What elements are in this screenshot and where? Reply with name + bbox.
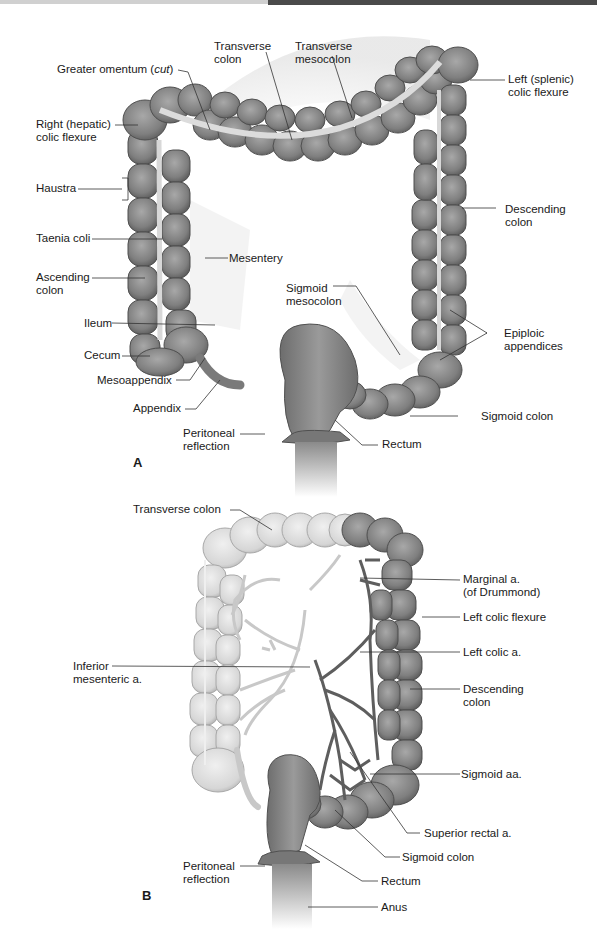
panel-label-b: B — [142, 888, 151, 903]
label-line: colon — [214, 53, 271, 66]
label-line: colic flexure — [508, 86, 574, 99]
label-rectum-a: Rectum — [382, 438, 422, 451]
label-line: colic flexure — [36, 131, 111, 144]
label-anus: Anus — [381, 901, 407, 914]
label-line: Taenia coli — [36, 232, 90, 245]
label-line: Ascending — [36, 271, 90, 284]
label-left-splenic-flexure: Left (splenic) colic flexure — [508, 73, 574, 99]
label-line: mesocolon — [286, 295, 342, 308]
label-line: Sigmoid colon — [481, 410, 553, 423]
label-peritoneal-reflection-a: Peritoneal reflection — [183, 427, 235, 453]
label-line: Peritoneal — [183, 427, 235, 440]
label-line: Descending — [505, 203, 566, 216]
label-line: Rectum — [382, 438, 422, 451]
label-line: Right (hepatic) — [36, 118, 111, 131]
label-line: Inferior — [73, 660, 142, 673]
label-line: Transverse — [295, 40, 352, 53]
panel-label-a: A — [133, 455, 142, 470]
label-rectum-b: Rectum — [381, 875, 421, 888]
label-line: Descending — [463, 683, 524, 696]
label-descending-colon-b: Descending colon — [463, 683, 524, 709]
label-line: Haustra — [36, 182, 76, 195]
label-line: Transverse colon — [133, 503, 221, 516]
label-line: colon — [505, 216, 566, 229]
label-line: Left colic flexure — [463, 611, 546, 624]
label-sigmoid-colon-a: Sigmoid colon — [481, 410, 553, 423]
label-right-hepatic-flexure: Right (hepatic) colic flexure — [36, 118, 111, 144]
label-line: Left colic a. — [463, 646, 521, 659]
panel-a-art — [123, 36, 478, 497]
label-mesoappendix: Mesoappendix — [97, 374, 172, 387]
label-epiploic-appendices: Epiploic appendices — [504, 327, 563, 353]
label-line: Mesentery — [229, 252, 283, 265]
label-line: Anus — [381, 901, 407, 914]
label-line: Sigmoid colon — [402, 851, 474, 864]
label-suffix: ) — [170, 63, 174, 75]
label-inferior-mesenteric-artery: Inferior mesenteric a. — [73, 660, 142, 686]
label-greater-omentum: Greater omentum (cut) — [57, 63, 173, 76]
label-text: Greater omentum ( — [57, 63, 154, 75]
label-line: Sigmoid aa. — [461, 768, 522, 781]
label-line: Left (splenic) — [508, 73, 574, 86]
label-line: Marginal a. — [463, 573, 540, 586]
label-transverse-colon-b: Transverse colon — [133, 503, 221, 516]
label-transverse-colon-a: Transverse colon — [214, 40, 271, 66]
label-line: Peritoneal — [183, 860, 235, 873]
label-sigmoid-arteries: Sigmoid aa. — [461, 768, 522, 781]
label-taenia-coli: Taenia coli — [36, 232, 90, 245]
label-line: Ileum — [84, 317, 112, 330]
label-sigmoid-mesocolon: Sigmoid mesocolon — [286, 282, 342, 308]
label-line: Sigmoid — [286, 282, 342, 295]
label-line: Cecum — [84, 349, 120, 362]
label-line: colon — [463, 696, 524, 709]
label-line: (of Drummond) — [463, 586, 540, 599]
label-appendix: Appendix — [133, 402, 181, 415]
label-ileum: Ileum — [84, 317, 112, 330]
label-mesentery: Mesentery — [229, 252, 283, 265]
label-italic-cut: cut — [154, 63, 169, 75]
label-left-colic-flexure-b: Left colic flexure — [463, 611, 546, 624]
label-cecum: Cecum — [84, 349, 120, 362]
label-line: mesocolon — [295, 53, 352, 66]
label-line: Epiploic — [504, 327, 563, 340]
label-line: appendices — [504, 340, 563, 353]
label-line: reflection — [183, 873, 235, 886]
label-line: Superior rectal a. — [424, 827, 512, 840]
label-superior-rectal-artery: Superior rectal a. — [424, 827, 512, 840]
label-line: Appendix — [133, 402, 181, 415]
label-line: Transverse — [214, 40, 271, 53]
label-line: reflection — [183, 440, 235, 453]
label-line: mesenteric a. — [73, 673, 142, 686]
label-line: Rectum — [381, 875, 421, 888]
label-left-colic-artery: Left colic a. — [463, 646, 521, 659]
label-sigmoid-colon-b: Sigmoid colon — [402, 851, 474, 864]
label-line: colon — [36, 284, 90, 297]
label-ascending-colon: Ascending colon — [36, 271, 90, 297]
label-transverse-mesocolon: Transverse mesocolon — [295, 40, 352, 66]
label-peritoneal-reflection-b: Peritoneal reflection — [183, 860, 235, 886]
label-marginal-artery: Marginal a. (of Drummond) — [463, 573, 540, 599]
label-line: Mesoappendix — [97, 374, 172, 387]
label-haustra: Haustra — [36, 182, 76, 195]
label-descending-colon-a: Descending colon — [505, 203, 566, 229]
